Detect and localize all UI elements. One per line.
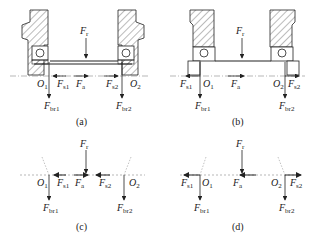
label-c-o1: O1 — [37, 178, 48, 190]
label-b-fbr2: Fbr2 — [279, 101, 294, 113]
label-c-fs1: Fs1 — [57, 178, 69, 190]
caption-d: (d) — [232, 222, 244, 232]
label-c-fbr1: Fbr1 — [43, 203, 58, 215]
label-a-fr: Fr — [80, 26, 88, 38]
label-a-o2: O2 — [130, 79, 141, 91]
label-a-fbr1: Fbr1 — [44, 101, 59, 113]
caption-b: (b) — [232, 117, 244, 127]
panel-d-drawing — [180, 150, 301, 200]
label-c-fr: Fr — [80, 139, 88, 151]
label-c-fbr2: Fbr2 — [117, 203, 132, 215]
label-d-o2: O2 — [271, 178, 282, 190]
caption-c: (c) — [76, 222, 87, 232]
caption-a: (a) — [76, 117, 87, 127]
label-b-fs1: Fs1 — [180, 79, 192, 91]
label-b-fa: Fa — [231, 79, 240, 91]
panel-c-drawing — [20, 150, 145, 200]
label-d-fbr1: Fbr1 — [194, 203, 209, 215]
label-d-o1: O1 — [202, 178, 213, 190]
label-d-fa: Fa — [233, 178, 242, 190]
label-b-fr: Fr — [236, 26, 244, 38]
label-b-o1: O1 — [203, 79, 214, 91]
label-b-fs2: Fs2 — [288, 79, 300, 91]
label-a-o1: O1 — [37, 79, 48, 91]
label-a-fa: Fa — [76, 79, 85, 91]
label-a-fs2: Fs2 — [106, 79, 118, 91]
label-d-fbr2: Fbr2 — [279, 203, 294, 215]
label-d-fs2: Fs2 — [290, 178, 302, 190]
label-c-fs2: Fs2 — [99, 178, 111, 190]
label-a-fs1: Fs1 — [57, 79, 69, 91]
label-d-fr: Fr — [236, 139, 244, 151]
label-a-fbr2: Fbr2 — [116, 101, 131, 113]
label-c-fa: Fa — [75, 178, 84, 190]
label-d-fs1: Fs1 — [181, 178, 193, 190]
label-c-o2: O2 — [129, 178, 140, 190]
label-b-fbr1: Fbr1 — [195, 101, 210, 113]
label-b-o2: O2 — [273, 79, 284, 91]
